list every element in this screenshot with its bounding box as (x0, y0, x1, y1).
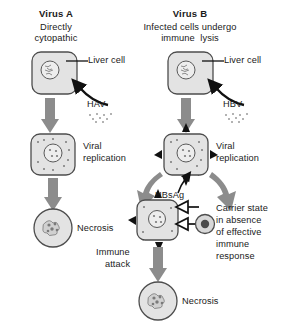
y-shaped-antibody-icon-1 (176, 201, 199, 213)
liver-cell-a (32, 52, 88, 94)
replication-cell-a (31, 134, 75, 175)
viral-replication-label-b-line2: replication (216, 153, 259, 163)
figure-canvas: Virus A Directly cytopathic Liver cell H… (0, 0, 289, 332)
diagram-svg (0, 0, 289, 332)
virus-a-subheading-line1: Directly (10, 22, 102, 32)
necrosis-cell-b (139, 282, 177, 320)
arrow-down-a1 (41, 98, 59, 133)
carrier-state-line1: Carrier state (216, 203, 268, 213)
hav-label: HAV (87, 99, 106, 109)
carrier-state-line5: response (216, 251, 255, 261)
virus-b-subheading-line2: immune lysis (118, 33, 262, 43)
immune-attack-label-line1: Immune (96, 247, 130, 257)
liver-cell-b (168, 52, 224, 94)
lymphocyte-icon (196, 215, 215, 234)
arrow-down-a2 (44, 178, 62, 211)
necrosis-label-b: Necrosis (182, 296, 219, 306)
liver-cell-label-a: Liver cell (88, 55, 125, 65)
y-shaped-antibody-icon-2 (176, 218, 196, 230)
virus-particle-dots-a (89, 113, 112, 123)
nucleus-icon (41, 61, 59, 79)
nucleus-icon-b (177, 61, 195, 79)
immune-attack-label-line2: attack (105, 259, 130, 269)
carrier-state-line4: immune (216, 239, 249, 249)
hbv-label: HBV (223, 99, 242, 109)
virus-a-subheading-line2: cytopathic (10, 33, 102, 43)
liver-cell-label-b: Liver cell (224, 55, 261, 65)
hbsag-label: HBsAg (155, 190, 184, 200)
arrow-down-immune-attack (149, 247, 167, 282)
viral-replication-label-b-line1: Viral (216, 141, 235, 151)
carrier-state-line3: of effective (216, 227, 261, 237)
viral-replication-label-a-line1: Viral (83, 141, 102, 151)
virus-b-heading: Virus B (142, 9, 238, 20)
carrier-state-line2: in absence (216, 215, 261, 225)
necrosis-label-a: Necrosis (77, 223, 114, 233)
viral-replication-label-a-line2: replication (83, 153, 126, 163)
virus-particle-dots-b (225, 113, 248, 123)
virus-a-heading: Virus A (14, 9, 98, 20)
necrosis-cell-a (34, 209, 72, 247)
virus-b-subheading-line1: Infected cells undergo (118, 22, 262, 32)
